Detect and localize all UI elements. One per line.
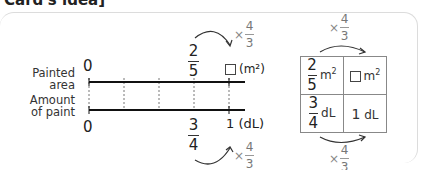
- table-row-area: 25m2 m2: [301, 57, 387, 95]
- cell-paint-one: 1 dL: [344, 95, 387, 133]
- bottom-multiplier: × 43: [234, 141, 254, 170]
- blank-box-icon: [350, 71, 361, 82]
- top-fraction: 2 5: [188, 44, 199, 79]
- table-row-paint: 34dL 1 dL: [301, 95, 387, 133]
- table-top-multiplier: × 43: [329, 13, 349, 42]
- top-unknown: (m²): [225, 62, 265, 76]
- cell-paint-known: 34dL: [301, 95, 344, 133]
- top-multiplier: × 43: [234, 20, 254, 49]
- bottom-end-value: 1 (dL): [226, 116, 264, 131]
- cell-area-known: 25m2: [301, 57, 344, 95]
- blank-box-icon: [225, 64, 236, 75]
- table-bottom-multiplier: × 43: [329, 144, 349, 170]
- cell-area-unknown: m2: [344, 57, 387, 95]
- bottom-fraction: 3 4: [188, 118, 199, 153]
- proportion-table: 25m2 m2 34dL 1 dL: [300, 56, 387, 133]
